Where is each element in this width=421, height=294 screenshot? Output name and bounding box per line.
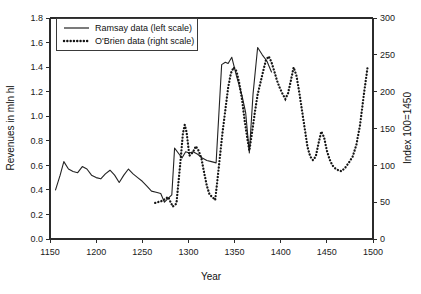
- y-tick-label-left: 1.6: [30, 38, 43, 48]
- x-tick-label: 1350: [225, 247, 245, 257]
- chart-figure: 0.00.20.40.60.81.01.21.41.61.8 050100150…: [0, 0, 421, 294]
- chart-plot-svg: 0.00.20.40.60.81.01.21.41.61.8 050100150…: [0, 0, 421, 294]
- y-tick-label-right: 150: [380, 124, 395, 134]
- series-group: [56, 47, 368, 206]
- y-tick-label-right: 300: [380, 13, 395, 23]
- y-tick-label-left: 0.0: [30, 234, 43, 244]
- series-ramsay-line: [56, 47, 272, 202]
- y-tick-label-right: 0: [380, 234, 385, 244]
- y-tick-label-right: 50: [380, 197, 390, 207]
- axis-left: 0.00.20.40.60.81.01.21.41.61.8: [30, 13, 50, 244]
- y-tick-label-left: 0.6: [30, 161, 43, 171]
- x-tick-label: 1250: [132, 247, 152, 257]
- x-tick-label: 1400: [271, 247, 291, 257]
- series-obrien-line: [155, 56, 367, 206]
- y-tick-label-left: 1.2: [30, 87, 43, 97]
- legend-label-ramsay: Ramsay data (left scale): [95, 23, 192, 33]
- y-axis-title-left: Revenues in mln hl: [5, 85, 16, 170]
- legend-label-obrien: O'Brien data (right scale): [95, 36, 194, 46]
- y-tick-label-left: 0.8: [30, 136, 43, 146]
- x-tick-label: 1500: [363, 247, 383, 257]
- x-tick-label: 1450: [317, 247, 337, 257]
- legend: Ramsay data (left scale) O'Brien data (r…: [56, 18, 197, 50]
- axis-bottom: 11501200125013001350140014501500: [40, 239, 383, 257]
- y-tick-label-left: 1.4: [30, 62, 43, 72]
- x-axis-title: Year: [201, 271, 222, 282]
- y-tick-label-left: 1.0: [30, 111, 43, 121]
- x-tick-label: 1200: [86, 247, 106, 257]
- y-tick-label-left: 1.8: [30, 13, 43, 23]
- y-tick-label-right: 200: [380, 87, 395, 97]
- y-axis-title-right: Index 100=1450: [402, 92, 413, 164]
- axis-right: 050100150200250300: [373, 13, 395, 244]
- y-tick-label-left: 0.2: [30, 210, 43, 220]
- y-tick-label-left: 0.4: [30, 185, 43, 195]
- y-tick-label-right: 100: [380, 161, 395, 171]
- x-tick-label: 1150: [40, 247, 59, 257]
- x-tick-label: 1300: [178, 247, 198, 257]
- y-tick-label-right: 250: [380, 50, 395, 60]
